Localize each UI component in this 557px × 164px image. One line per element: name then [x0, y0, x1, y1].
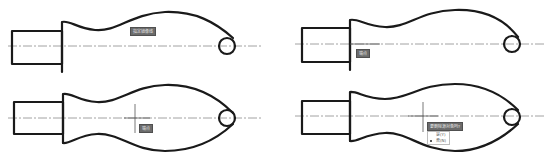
shaft-rect	[302, 28, 350, 62]
command-tooltip: 指定镜像线	[130, 27, 156, 36]
cad-mirror-figure: 指定镜像线 端点 端点 要删除源对象吗? 是(Y) 否(N)	[0, 0, 557, 164]
menu-option-label: 否(N)	[436, 138, 446, 143]
panel-top-right	[295, 10, 545, 70]
snap-tooltip: 端点	[139, 124, 153, 133]
panel-bottom-right	[295, 84, 545, 151]
shaft-rect	[302, 101, 350, 134]
panel-bottom-left	[8, 85, 262, 151]
upper-profile-curve	[62, 12, 233, 72]
panel-top-left	[8, 12, 262, 72]
menu-option-label: 是(Y)	[436, 132, 446, 137]
end-circle	[504, 109, 520, 125]
upper-profile-curve	[350, 10, 518, 70]
selected-dot-icon	[430, 140, 432, 142]
drawing-canvas	[0, 0, 557, 164]
prompt-tooltip: 要删除源对象吗?	[427, 122, 463, 131]
snap-tooltip: 端点	[356, 49, 370, 58]
shaft-rect	[12, 31, 62, 64]
option-menu: 是(Y) 否(N)	[427, 131, 450, 145]
menu-option-no[interactable]: 否(N)	[428, 138, 449, 144]
